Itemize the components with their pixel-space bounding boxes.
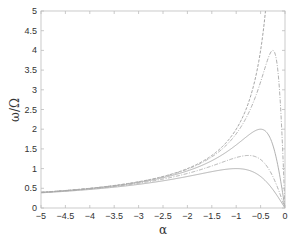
y-axis-label: ω/Ω: [8, 98, 22, 122]
y-tick-label: 3: [32, 85, 37, 95]
chart: −5−4.5−4−3.5−3−2.5−2−1.5−1−0.50 00.511.5…: [0, 0, 302, 242]
x-tick-label: −3.5: [105, 211, 123, 221]
x-tick-label: −1.5: [203, 211, 221, 221]
y-tick-label: 5: [32, 6, 37, 16]
y-tick-label: 2: [32, 124, 37, 134]
y-tick-label: 4.5: [24, 26, 37, 36]
plot-background: [41, 11, 285, 208]
y-tick-label: 3.5: [24, 65, 37, 75]
y-tick-label: 4: [32, 45, 37, 55]
y-tick-label: 0: [32, 203, 37, 213]
x-tick-label: −1: [231, 211, 241, 221]
y-tick-label: 2.5: [24, 105, 37, 115]
x-tick-label: −2.5: [154, 211, 172, 221]
y-tick-label: 1.5: [24, 144, 37, 154]
x-tick-label: −4.5: [57, 211, 75, 221]
x-tick-label: −4: [85, 211, 95, 221]
x-axis-label: α: [159, 223, 167, 237]
y-tick-label: 0.5: [24, 183, 37, 193]
x-tick-label: −3: [133, 211, 143, 221]
y-tick-label: 1: [32, 164, 37, 174]
x-tick-label: −5: [36, 211, 46, 221]
x-tick-label: 0: [282, 211, 287, 221]
x-tick-label: −2: [182, 211, 192, 221]
x-tick-label: −0.5: [252, 211, 270, 221]
